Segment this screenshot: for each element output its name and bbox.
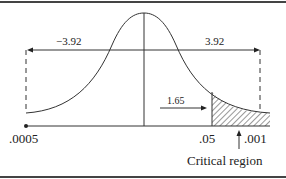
label-001: .001 — [244, 132, 267, 145]
baseline-left-dot — [24, 124, 28, 128]
label-0005: .0005 — [9, 132, 38, 145]
critical-region-hatch — [212, 92, 270, 126]
label-3-92: 3.92 — [205, 36, 224, 47]
label-critical-region: Critical region — [187, 154, 262, 167]
label-neg-3-92: −3.92 — [56, 36, 81, 47]
bell-curve — [26, 13, 270, 113]
label-05: .05 — [199, 132, 215, 145]
bottom-rule — [0, 176, 286, 178]
label-1-65: 1.65 — [167, 96, 185, 106]
